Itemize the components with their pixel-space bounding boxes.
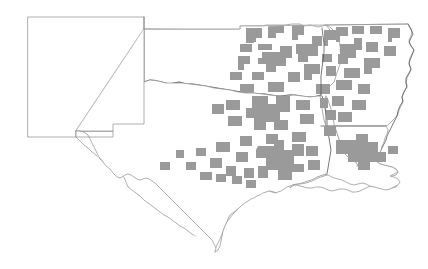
shaded-county [292, 132, 306, 142]
shaded-county [212, 104, 224, 114]
shaded-county [320, 98, 328, 108]
shaded-county [326, 66, 336, 76]
shaded-county [226, 166, 236, 176]
map-canvas [0, 0, 428, 269]
shaded-county [246, 180, 256, 188]
shaded-county [176, 150, 184, 158]
shaded-county [308, 160, 320, 170]
shaded-county [232, 176, 242, 184]
shaded-county [324, 126, 336, 136]
shaded-county [226, 100, 240, 110]
shaded-county [358, 84, 370, 94]
shaded-county [216, 142, 230, 152]
shaded-county [366, 42, 378, 52]
map-figure [0, 0, 428, 269]
shaded-county [326, 110, 336, 120]
shaded-county [240, 44, 252, 52]
shaded-county [196, 148, 206, 156]
shaded-county [316, 84, 330, 94]
shaded-county [210, 158, 222, 168]
shaded-county [388, 146, 398, 154]
shaded-county [200, 172, 212, 180]
shaded-county [252, 72, 264, 80]
shaded-county [236, 152, 248, 162]
shaded-county [300, 114, 314, 124]
shaded-county [332, 96, 344, 106]
shaded-county [240, 84, 254, 92]
shaded-county [160, 162, 170, 170]
shaded-county [258, 44, 272, 50]
shaded-county [352, 100, 366, 110]
shaded-county [338, 112, 352, 122]
shaded-county [228, 116, 242, 126]
shaded-county [268, 82, 284, 92]
shaded-county [336, 80, 352, 90]
shaded-county [216, 174, 226, 182]
shaded-county [288, 72, 300, 82]
shaded-county [244, 168, 254, 178]
shaded-county [230, 72, 242, 80]
shaded-county [186, 162, 196, 170]
shaded-county [296, 100, 310, 110]
shaded-county [248, 36, 256, 42]
shaded-county [352, 26, 364, 34]
shaded-county [384, 46, 396, 56]
shaded-county [306, 146, 318, 156]
shaded-county [370, 26, 382, 34]
shaded-county [344, 68, 360, 78]
shaded-county [240, 136, 252, 146]
